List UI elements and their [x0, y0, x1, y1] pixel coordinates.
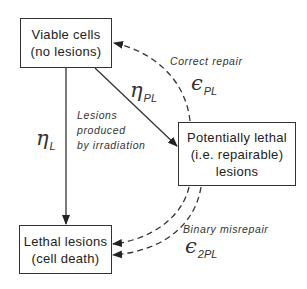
node-viable-line2: (no lesions): [31, 43, 102, 60]
node-pl-line1: Potentially lethal: [187, 129, 287, 146]
eta-pl-subscript: PL: [144, 92, 157, 104]
symbol-epsilon-pl: ϵPL: [191, 73, 217, 97]
node-viable-line1: Viable cells: [31, 26, 100, 43]
eta-l-subscript: L: [50, 140, 56, 152]
epsilon-glyph: ϵ: [185, 234, 197, 258]
label-lesions-produced: Lesions produced by irradiation: [77, 108, 146, 153]
label-correct-repair: Correct repair: [170, 54, 243, 69]
arrow-binary-misrepair-1: [113, 187, 189, 244]
eta-glyph: η: [130, 78, 143, 102]
eta-glyph: η: [36, 126, 49, 150]
symbol-epsilon-2pl: ϵ2PL: [185, 236, 217, 260]
annotation-line3: by irradiation: [77, 138, 146, 153]
node-viable-cells: Viable cells (no lesions): [20, 18, 112, 68]
label-binary-misrepair: Binary misrepair: [183, 222, 268, 237]
epsilon-2pl-subscript: 2PL: [198, 248, 218, 260]
node-pl-line2: (i.e. repairable): [191, 146, 284, 163]
node-lethal-line2: (cell death): [32, 250, 100, 267]
symbol-eta-pl: ηPL: [130, 80, 157, 104]
node-lethal-line1: Lethal lesions: [24, 233, 108, 250]
node-potentially-lethal: Potentially lethal (i.e. repairable) les…: [178, 122, 296, 186]
annotation-line2: produced: [77, 123, 146, 138]
symbol-eta-l: ηL: [36, 128, 56, 152]
node-pl-line3: lesions: [216, 163, 259, 180]
node-lethal-lesions: Lethal lesions (cell death): [19, 225, 112, 274]
annotation-line1: Lesions: [77, 108, 146, 123]
epsilon-pl-subscript: PL: [204, 85, 217, 97]
epsilon-glyph: ϵ: [191, 71, 203, 95]
